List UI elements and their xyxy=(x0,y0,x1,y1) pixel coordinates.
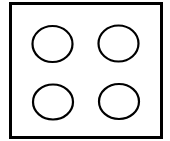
frame-rectangle xyxy=(11,4,162,138)
diagram-canvas xyxy=(0,0,170,141)
circle-top-left xyxy=(33,26,73,62)
circle-bottom-left xyxy=(33,85,73,120)
circle-bottom-right xyxy=(99,84,139,119)
circle-top-right xyxy=(99,26,139,62)
